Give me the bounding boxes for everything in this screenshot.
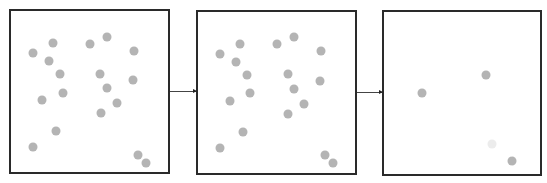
point-marker [103, 33, 112, 42]
point-marker [482, 71, 491, 80]
point-marker [56, 70, 65, 79]
point-marker [29, 143, 38, 152]
point-marker [97, 109, 106, 118]
point-marker [273, 40, 282, 49]
arrow-icon [357, 92, 382, 93]
faint-point-marker [488, 140, 497, 149]
point-marker [86, 40, 95, 49]
point-marker [130, 47, 139, 56]
point-marker [316, 77, 325, 86]
point-marker [290, 33, 299, 42]
point-marker [134, 151, 143, 160]
point-marker [216, 50, 225, 59]
point-marker [59, 89, 68, 98]
point-marker [243, 71, 252, 80]
panel-stage-3 [382, 10, 542, 176]
point-marker [508, 157, 517, 166]
point-marker [321, 151, 330, 160]
point-marker [284, 110, 293, 119]
point-marker [317, 47, 326, 56]
point-marker [129, 76, 138, 85]
point-marker [300, 100, 309, 109]
arrow-icon [170, 91, 196, 92]
point-marker [52, 127, 61, 136]
point-marker [45, 57, 54, 66]
point-marker [216, 144, 225, 153]
point-marker [226, 97, 235, 106]
point-marker [38, 96, 47, 105]
point-marker [29, 49, 38, 58]
point-marker [113, 99, 122, 108]
point-marker [103, 84, 112, 93]
point-marker [49, 39, 58, 48]
point-marker [246, 89, 255, 98]
point-marker [96, 70, 105, 79]
point-marker [142, 159, 151, 168]
point-marker [239, 128, 248, 137]
point-marker [284, 70, 293, 79]
point-marker [236, 40, 245, 49]
point-marker [290, 85, 299, 94]
point-marker [418, 89, 427, 98]
point-marker [329, 159, 338, 168]
point-marker [232, 58, 241, 67]
